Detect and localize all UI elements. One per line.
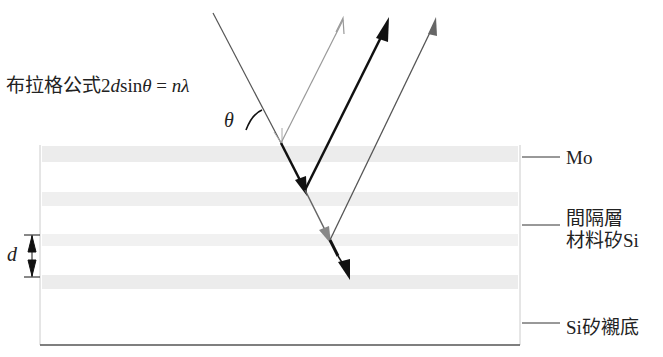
formula-d: d xyxy=(111,75,121,96)
mo-layer-1 xyxy=(42,146,518,162)
reflected-ray-3 xyxy=(330,22,435,240)
theta-arc xyxy=(246,110,262,130)
formula-n: n xyxy=(172,75,182,96)
formula-prefix: 布拉格公式 xyxy=(6,75,101,96)
reflected-ray-2 xyxy=(305,25,387,190)
formula-equals: = xyxy=(152,75,172,96)
label-leaders xyxy=(522,157,560,323)
formula-sin: sin xyxy=(120,75,142,96)
formula-two: 2 xyxy=(101,75,111,96)
reflected-ray-1 xyxy=(281,20,343,143)
multilayer-stack xyxy=(40,145,520,345)
spacer-label-line1: 間隔層 xyxy=(566,208,639,230)
spacing-label: d xyxy=(7,244,17,264)
d-dimension-marker xyxy=(24,235,40,277)
diagram-canvas xyxy=(0,0,663,357)
bragg-formula: 布拉格公式2dsinθ = nλ xyxy=(6,76,189,95)
formula-theta: θ xyxy=(142,75,151,96)
substrate-label: Si矽襯底 xyxy=(566,318,639,337)
bragg-multilayer-diagram: 布拉格公式2dsinθ = nλ θ d Mo 間隔層 材料矽Si Si矽襯底 xyxy=(0,0,663,357)
reflected-rays xyxy=(281,17,437,240)
spacer-layer-label: 間隔層 材料矽Si xyxy=(566,208,639,252)
mo-layer-2 xyxy=(42,192,518,206)
formula-lambda: λ xyxy=(181,75,189,96)
angle-label: θ xyxy=(224,110,234,130)
mo-layer-4 xyxy=(42,275,518,289)
mo-layer-3 xyxy=(42,234,518,246)
spacer-label-line2: 材料矽Si xyxy=(566,230,639,252)
mo-layer-label: Mo xyxy=(566,148,592,167)
